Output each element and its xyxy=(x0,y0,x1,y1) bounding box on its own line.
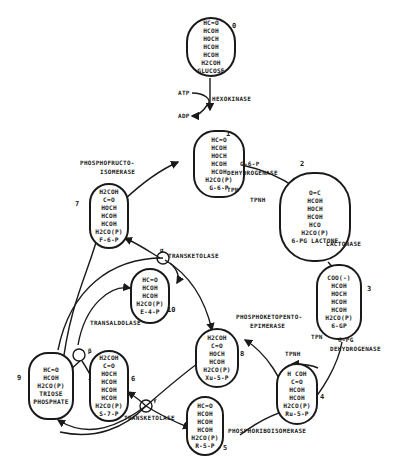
node-1-line: HC=O xyxy=(211,136,227,144)
node-4-line: H2CO(P) xyxy=(283,402,310,410)
atp-adp-arrow xyxy=(192,93,209,116)
node-6-line: HCOH xyxy=(101,394,117,402)
node-7-line: H2CO(P) xyxy=(95,228,122,236)
label-tpn-1: TPN xyxy=(227,186,239,194)
node-r5p: HC=O HCOH HCOH HCOH H2CO(P) R-5-P xyxy=(186,396,224,456)
label-atp: ATP xyxy=(178,89,190,97)
node-2-line: HCOH xyxy=(307,213,323,221)
node-triose-phosphate: HC=O HCOH H2CO(P) TRIOSE PHOSPHATE xyxy=(28,352,74,420)
node-2-line: HCO xyxy=(309,221,321,229)
node-1-line: G-6-P xyxy=(209,184,229,192)
node-ru5p: H COH C=O HCOH HCOH H2CO(P) Ru-5-P xyxy=(276,363,318,425)
node-9-line: TRIOSE xyxy=(39,390,63,398)
node-3-line: COO(-) xyxy=(327,274,351,282)
node-6-line: HCOH xyxy=(101,378,117,386)
node-10-line: E-4-P xyxy=(140,308,160,316)
node-9-line: PHOSPHATE xyxy=(33,398,68,406)
node-1-number: 1 xyxy=(226,130,230,138)
label-riboisomerase: PHOSPHORIBOISOMERASE xyxy=(228,427,306,435)
label-tpn-2: TPN xyxy=(311,333,323,341)
node-s7p: H2COH C=O HOCH HCOH HCOH HCOH H2CO(P) S-… xyxy=(89,350,129,422)
label-g6p-dh-1: G-6-P xyxy=(240,160,260,168)
node-2-line: O=C xyxy=(309,189,321,197)
node-8-line: Xu-5-P xyxy=(205,374,229,382)
node-1-line: HCOH xyxy=(211,168,227,176)
node-6-line: H2COH xyxy=(99,354,119,362)
node-6-line: S-7-P xyxy=(99,410,119,418)
node-8-line: HCOH xyxy=(209,358,225,366)
label-pg-dh-2: DEHYDROGENASE xyxy=(330,345,381,353)
label-transketolase-gamma: TRANSKETOLASE xyxy=(124,414,175,422)
node-2-number: 2 xyxy=(300,160,304,168)
node-6-line: H2CO(P) xyxy=(95,402,122,410)
node-9-line: H2CO(P) xyxy=(37,382,64,390)
node-7-line: HOCH xyxy=(101,204,117,212)
node-3-line: HCOH xyxy=(331,298,347,306)
node-5-line: R-5-P xyxy=(195,442,215,450)
node-6-number: 6 xyxy=(131,375,135,383)
node-10-line: HCOH xyxy=(142,284,158,292)
node-3-line: HCOH xyxy=(331,282,347,290)
node-f6p: H2COH C=O HOCH HCOH HCOH H2CO(P) F-6-P xyxy=(89,183,129,249)
node-5-line: HCOH xyxy=(197,410,213,418)
node-0-number: 0 xyxy=(232,22,236,30)
node-3-line: 6-GP xyxy=(331,322,347,330)
node-1-line: H2CO(P) xyxy=(205,176,232,184)
node-6pg-lactone: O=C HCOH HOCH HCOH HCO H2CO(P) 6-PG LACT… xyxy=(279,172,351,262)
node-8-line: C=O xyxy=(211,342,223,350)
node-2-line: H2CO(P) xyxy=(301,229,328,237)
node-4-number: 4 xyxy=(320,393,324,401)
label-hexokinase: HEXOKINASE xyxy=(212,95,251,103)
node-0-line: H2COH xyxy=(201,59,221,67)
node-7-line: HCOH xyxy=(101,212,117,220)
node-1-line: HCOH xyxy=(211,144,227,152)
node-5-line: HC=O xyxy=(197,402,213,410)
node-5-line: HCOH xyxy=(197,426,213,434)
label-alpha: α xyxy=(160,246,164,254)
node-1-line: HOCH xyxy=(211,152,227,160)
node-0-line: HOCH xyxy=(203,35,219,43)
label-transketolase-alpha: TRANSKETOLASE xyxy=(168,252,219,260)
node-7-line: HCOH xyxy=(101,220,117,228)
label-adp: ADP xyxy=(178,112,190,120)
node-0-line: GLUCOSE xyxy=(197,67,224,75)
node-10-line: HCOH xyxy=(142,292,158,300)
node-8-line: H2COH xyxy=(207,334,227,342)
node-glucose: HC=O HCOH HOCH HCOH HCOH H2COH GLUCOSE xyxy=(186,17,236,77)
label-epimerase-1: PHOSPHOKETOPENTO- xyxy=(236,313,303,321)
label-fructo-isomerase-1: PHOSPHOFRUCTO- xyxy=(80,159,135,167)
transaldolase-junction xyxy=(73,349,85,361)
node-3-number: 3 xyxy=(367,285,371,293)
label-fructo-isomerase-2: ISOMERASE xyxy=(100,168,135,176)
node-10-line: HC=O xyxy=(142,276,158,284)
arrow-alpha-7 xyxy=(125,238,160,258)
node-0-line: HCOH xyxy=(203,43,219,51)
node-3-line: HOCH xyxy=(331,290,347,298)
node-9-number: 9 xyxy=(17,374,21,382)
arrow-beta-10 xyxy=(78,288,130,345)
node-8-line: H2CO(P) xyxy=(203,366,230,374)
node-5-line: H2CO(P) xyxy=(191,434,218,442)
node-xu5p: H2COH C=O HOCH HCOH H2CO(P) Xu-5-P xyxy=(195,328,239,388)
label-gamma: γ xyxy=(153,396,157,404)
node-4-line: C=O xyxy=(291,378,303,386)
node-6-line: HCOH xyxy=(101,386,117,394)
node-6gp: COO(-) HCOH HOCH HCOH HCOH H2CO(P) 6-GP xyxy=(316,264,362,340)
node-3-line: H2CO(P) xyxy=(325,314,352,322)
label-tpnh-1: TPNH xyxy=(250,196,266,204)
label-lactonase: LACTONASE xyxy=(326,240,361,248)
node-5-line: HCOH xyxy=(197,418,213,426)
node-9-line: HCOH xyxy=(43,374,59,382)
node-4-line: Ru-5-P xyxy=(285,410,309,418)
node-4-line: HCOH xyxy=(289,386,305,394)
node-8-number: 8 xyxy=(240,350,244,358)
node-0-line: HCOH xyxy=(203,27,219,35)
node-4-line: H COH xyxy=(287,370,307,378)
node-0-line: HCOH xyxy=(203,51,219,59)
node-1-line: HCOH xyxy=(211,160,227,168)
node-10-number: 10 xyxy=(167,306,175,314)
label-g6p-dh-2: DEHYDROGENASE xyxy=(227,169,278,177)
label-beta: β xyxy=(88,347,92,355)
node-3-line: HCOH xyxy=(331,306,347,314)
node-8-line: HOCH xyxy=(209,350,225,358)
